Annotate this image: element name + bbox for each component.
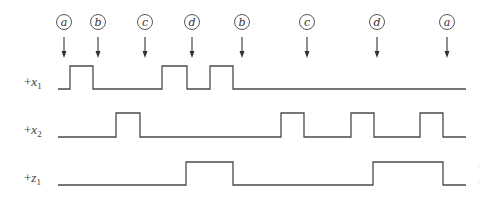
signal-label: +z1 (24, 170, 41, 187)
marker-d: d (185, 15, 200, 59)
signal-waveforms: +x1+x2+z1 (24, 66, 466, 187)
arrow-head-icon (375, 51, 380, 58)
marker-label: d (188, 16, 195, 29)
marker-c: c (138, 15, 153, 59)
marker-label: a (61, 16, 68, 29)
marker-label: d (373, 16, 380, 29)
signal-x2: +x2 (24, 113, 466, 139)
marker-c: c (300, 15, 315, 59)
arrow-head-icon (190, 51, 195, 58)
svg-text:ⁱ: ⁱ (478, 164, 479, 172)
waveform-z1 (58, 162, 466, 185)
marker-b: b (91, 15, 106, 59)
marker-a: a (57, 15, 72, 59)
marker-a: a (440, 15, 455, 59)
clock-markers: abcdbcda (57, 15, 455, 59)
arrow-head-icon (143, 51, 148, 58)
svg-text:ⁱ: ⁱ (478, 180, 479, 188)
marker-label: c (142, 16, 148, 29)
waveform-x2 (58, 113, 466, 137)
waveform-x1 (58, 66, 466, 89)
marker-label: c (304, 16, 310, 29)
arrow-head-icon (62, 51, 67, 58)
scan-artifact: ⁱ ⁱ (478, 164, 479, 188)
marker-b: b (235, 15, 250, 59)
marker-label: b (94, 16, 101, 29)
signal-label: +x1 (24, 74, 42, 91)
marker-label: a (444, 16, 451, 29)
signal-label: +x2 (24, 122, 42, 139)
arrow-head-icon (445, 51, 450, 58)
timing-diagram: abcdbcda +x1+x2+z1 ⁱ ⁱ (0, 0, 501, 198)
signal-x1: +x1 (24, 66, 466, 91)
arrow-head-icon (305, 51, 310, 58)
arrow-head-icon (240, 51, 245, 58)
arrow-head-icon (96, 51, 101, 58)
signal-z1: +z1 (24, 162, 466, 187)
timing-diagram-canvas: abcdbcda +x1+x2+z1 ⁱ ⁱ (0, 0, 501, 198)
marker-label: b (238, 16, 245, 29)
marker-d: d (370, 15, 385, 59)
